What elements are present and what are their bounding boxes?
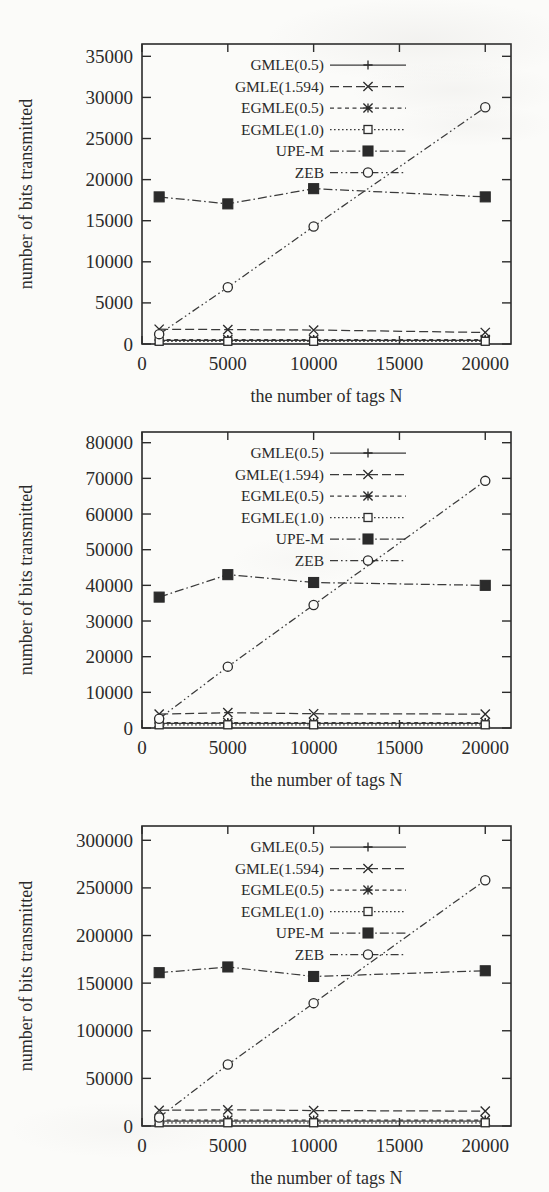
series-upe-m: [154, 184, 490, 209]
x-tick-label: 5000: [209, 353, 247, 374]
legend-label: GMLE(0.5): [250, 444, 324, 462]
legend-marker: [363, 928, 373, 938]
legend-label: GMLE(1.594): [235, 78, 324, 96]
series-line: [159, 1110, 485, 1111]
y-tick-label: 35000: [86, 46, 134, 67]
legend-marker: [363, 448, 372, 457]
legend-marker: [363, 60, 372, 69]
legend-label: GMLE(0.5): [250, 838, 324, 856]
legend-marker: [363, 168, 372, 177]
y-tick-label: 80000: [86, 432, 134, 453]
legend-label: EGMLE(1.0): [241, 509, 324, 527]
series-line: [159, 713, 485, 714]
y-tick-label: 40000: [86, 575, 134, 596]
plot-frame: [142, 44, 511, 344]
series-gmle-1-594: [155, 1105, 490, 1116]
y-tick-label: 10000: [86, 251, 134, 272]
legend-marker: [363, 885, 372, 894]
line-chart: 0500001000001500002000002500003000000500…: [0, 782, 549, 1192]
y-tick-label: 100000: [76, 1020, 133, 1041]
y-axis-title: number of bits transmitted: [16, 485, 36, 675]
y-tick-label: 10000: [86, 682, 134, 703]
series-gmle-1-594: [155, 708, 490, 719]
y-tick-label: 25000: [86, 128, 134, 149]
y-tick-label: 20000: [86, 169, 134, 190]
y-axis-title: number of bits transmitted: [16, 881, 36, 1071]
series-upe-m: [154, 962, 490, 982]
legend: GMLE(0.5)GMLE(1.594)EGMLE(0.5)EGMLE(1.0)…: [235, 444, 406, 569]
legend-marker: [363, 146, 373, 156]
x-tick-label: 20000: [462, 737, 510, 758]
legend-label: UPE-M: [276, 924, 324, 941]
series-line: [159, 189, 485, 204]
y-tick-label: 0: [124, 718, 134, 739]
legend-label: EGMLE(1.0): [241, 121, 324, 139]
series-egmle-0-5: [155, 335, 490, 344]
legend: GMLE(0.5)GMLE(1.594)EGMLE(0.5)EGMLE(1.0)…: [235, 56, 406, 181]
legend-marker: [363, 491, 372, 500]
y-tick-label: 150000: [76, 973, 133, 994]
y-tick-label: 30000: [86, 87, 134, 108]
y-tick-label: 50000: [86, 1068, 134, 1089]
series-upe-m: [154, 570, 490, 602]
y-tick-label: 0: [124, 334, 134, 355]
legend-label: ZEB: [295, 552, 324, 569]
series-gmle-0-5: [155, 1116, 490, 1125]
x-tick-label: 10000: [290, 1135, 338, 1156]
plot-frame: [142, 432, 511, 728]
y-tick-label: 15000: [86, 210, 134, 231]
y-tick-label: 300000: [76, 830, 133, 851]
y-tick-label: 250000: [76, 877, 133, 898]
legend-marker: [364, 126, 372, 134]
legend-marker: [364, 908, 372, 916]
x-axis-title: the number of tags N: [251, 1168, 403, 1188]
legend-label: EGMLE(0.5): [241, 99, 324, 117]
series-gmle-0-5: [155, 719, 490, 728]
series-egmle-0-5: [155, 718, 490, 727]
legend-marker: [364, 514, 372, 522]
y-axis-title: number of bits transmitted: [16, 99, 36, 289]
series-line: [159, 967, 485, 977]
y-tick-label: 60000: [86, 504, 134, 525]
legend-marker: [363, 534, 373, 544]
y-tick-label: 30000: [86, 611, 134, 632]
y-tick-label: 5000: [95, 292, 133, 313]
series-line: [159, 575, 485, 597]
x-tick-label: 0: [137, 737, 147, 758]
legend-marker: [363, 950, 372, 959]
legend-marker: [363, 103, 372, 112]
legend-marker: [363, 556, 372, 565]
x-tick-label: 5000: [209, 1135, 247, 1156]
legend-label: ZEB: [295, 164, 324, 181]
x-tick-label: 10000: [290, 353, 338, 374]
x-tick-label: 0: [137, 1135, 147, 1156]
line-chart: 0100002000030000400005000060000700008000…: [0, 392, 549, 792]
legend-label: EGMLE(1.0): [241, 903, 324, 921]
x-tick-label: 20000: [462, 353, 510, 374]
legend-label: ZEB: [295, 946, 324, 963]
chart-panel-3: 0500001000001500002000002500003000000500…: [0, 782, 549, 1192]
y-tick-label: 70000: [86, 468, 134, 489]
x-tick-label: 5000: [209, 737, 247, 758]
y-tick-label: 50000: [86, 539, 134, 560]
legend-label: GMLE(1.594): [235, 860, 324, 878]
x-tick-label: 10000: [290, 737, 338, 758]
y-tick-label: 0: [124, 1116, 134, 1137]
x-tick-label: 0: [137, 353, 147, 374]
chart-panel-1: 0500010000150002000025000300003500005000…: [0, 0, 549, 410]
y-tick-label: 200000: [76, 925, 133, 946]
legend-label: GMLE(1.594): [235, 466, 324, 484]
x-tick-label: 20000: [462, 1135, 510, 1156]
legend-label: EGMLE(0.5): [241, 487, 324, 505]
x-tick-label: 15000: [376, 737, 424, 758]
legend-label: GMLE(0.5): [250, 56, 324, 74]
series-line: [159, 329, 485, 332]
legend-label: EGMLE(0.5): [241, 881, 324, 899]
chart-panel-2: 0100002000030000400005000060000700008000…: [0, 392, 549, 792]
series-zeb: [155, 103, 490, 339]
legend-label: UPE-M: [276, 142, 324, 159]
line-chart: 0500010000150002000025000300003500005000…: [0, 0, 549, 410]
series-gmle-1-594: [155, 325, 490, 337]
y-tick-label: 20000: [86, 646, 134, 667]
legend: GMLE(0.5)GMLE(1.594)EGMLE(0.5)EGMLE(1.0)…: [235, 838, 406, 963]
